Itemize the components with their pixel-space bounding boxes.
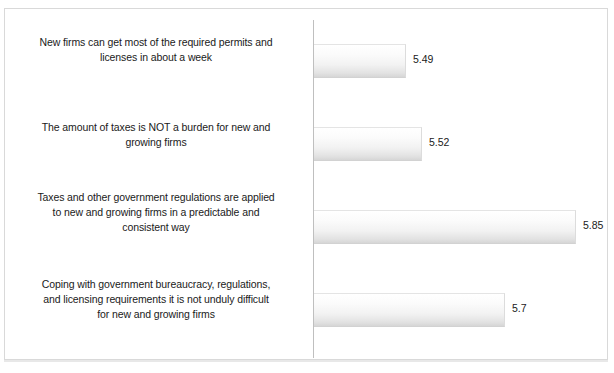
- category-label-line: to new and growing firms in a predictabl…: [6, 205, 306, 220]
- category-label: New firms can get most of the required p…: [6, 35, 306, 65]
- chart-row: Coping with government bureaucracy, regu…: [0, 263, 614, 348]
- category-label: The amount of taxes is NOT a burden for …: [6, 120, 306, 150]
- chart-row: Taxes and other government regulations a…: [0, 178, 614, 263]
- bar-value-label: 5.52: [429, 136, 449, 148]
- bar[interactable]: [314, 44, 406, 78]
- bar[interactable]: [314, 127, 422, 161]
- category-label-line: licenses in about a week: [6, 50, 306, 65]
- category-label: Taxes and other government regulations a…: [6, 190, 306, 235]
- chart-frame-shadow: [4, 360, 608, 362]
- category-label-line: for new and growing firms: [6, 307, 306, 322]
- bar[interactable]: [314, 210, 576, 244]
- chart-plot-area: New firms can get most of the required p…: [0, 8, 614, 360]
- bar-value-label: 5.49: [413, 53, 433, 65]
- category-label-line: Taxes and other government regulations a…: [6, 190, 306, 205]
- category-label: Coping with government bureaucracy, regu…: [6, 277, 306, 322]
- category-label-line: New firms can get most of the required p…: [6, 35, 306, 50]
- bar-value-label: 5.7: [512, 302, 527, 314]
- bar-value-label: 5.85: [583, 219, 603, 231]
- chart-row: The amount of taxes is NOT a burden for …: [0, 93, 614, 178]
- category-label-line: and licensing requirements it is not und…: [6, 292, 306, 307]
- category-label-line: Coping with government bureaucracy, regu…: [6, 277, 306, 292]
- value-axis-line: [313, 20, 314, 358]
- category-label-line: consistent way: [6, 220, 306, 235]
- category-label-line: growing firms: [6, 135, 306, 150]
- chart-row: New firms can get most of the required p…: [0, 8, 614, 93]
- bar[interactable]: [314, 293, 505, 327]
- bar-chart: New firms can get most of the required p…: [0, 0, 614, 373]
- category-label-line: The amount of taxes is NOT a burden for …: [6, 120, 306, 135]
